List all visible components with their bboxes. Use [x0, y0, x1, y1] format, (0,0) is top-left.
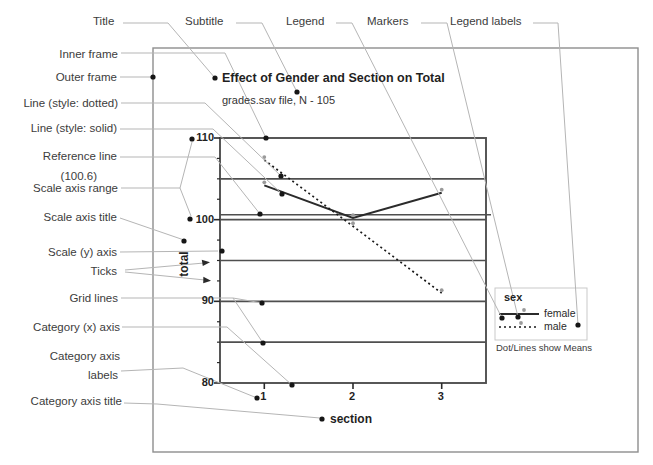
data-point-marker: [262, 180, 266, 184]
callout-dot-grid-lines-b: [260, 340, 265, 345]
annotation-label-legend: Legend: [286, 15, 324, 28]
annotation-label-subtitle: Subtitle: [185, 15, 223, 28]
annotation-label-category-axis-title: Category axis title: [31, 395, 122, 408]
annotation-label-legend-labels: Legend labels: [450, 15, 522, 28]
ticks-arrow-line: [125, 272, 205, 280]
y-tick-label: 110: [184, 131, 214, 143]
data-point-marker: [351, 221, 355, 225]
x-tick-label: 1: [260, 390, 266, 402]
series-line-male: [264, 160, 441, 293]
chart-title: Effect of Gender and Section on Total: [222, 71, 445, 85]
legend-label-male: male: [544, 320, 567, 332]
callout-dot-category-axis-title: [319, 416, 324, 421]
annotation-label-scale-y-axis: Scale (y) axis: [48, 246, 117, 259]
callout-dot-title: [212, 75, 217, 80]
annotation-label-reference-line: Reference line: [43, 150, 117, 163]
x-tick-label: 2: [349, 390, 355, 402]
annotation-label-outer-frame: Outer frame: [56, 71, 117, 84]
callout-dot-legend: [499, 315, 504, 320]
callout-dot-line-dotted: [278, 173, 283, 178]
annotation-label-line-dotted: Line (style: dotted): [23, 97, 118, 110]
callout-dot-reference-line: [257, 211, 262, 216]
callout-dot-legend-labels: [575, 322, 580, 327]
callout-line-legend: [336, 23, 502, 318]
y-tick-label: 100: [184, 213, 214, 225]
callout-line-scale-y-axis: [120, 251, 218, 252]
chart-subtitle: grades.sav file, N - 105: [222, 94, 335, 106]
figure-chart-anatomy: Title Subtitle Legend Markers Legend lab…: [0, 0, 653, 465]
callout-dot-markers: [515, 314, 520, 319]
annotation-label-markers: Markers: [367, 15, 409, 28]
annotation-label-scale-axis-title: Scale axis title: [43, 211, 117, 224]
callout-dot-inner-frame: [263, 135, 268, 140]
callout-dot-outer-frame: [150, 74, 155, 79]
ticks-arrow-line: [125, 263, 204, 270]
callout-dot-grid-lines-a: [259, 300, 264, 305]
legend-note: Dot/Lines show Means: [496, 342, 592, 353]
annotation-label-scale-axis-range: Scale axis range: [33, 182, 118, 195]
annotation-label-title: Title: [93, 15, 114, 28]
legend-marker-male: [519, 321, 523, 325]
callout-dot-category-x-axis: [289, 382, 294, 387]
ticks-arrowhead: [203, 277, 212, 284]
annotation-label-category-x-axis: Category (x) axis: [33, 321, 120, 334]
data-point-marker: [351, 213, 355, 217]
y-tick-label: 80: [184, 376, 214, 388]
annotation-label-category-axis: Category axis: [50, 350, 120, 363]
callout-line-scale-axis-range-a: [121, 142, 192, 188]
ticks-arrowhead: [202, 259, 211, 266]
annotation-label-grid-lines: Grid lines: [69, 292, 118, 305]
callout-dot-category-axis-labels: [254, 395, 259, 400]
callout-line-legend-labels: [533, 23, 578, 325]
x-tick-label: 3: [438, 390, 444, 402]
callout-dot-line-solid: [279, 191, 284, 196]
annotation-label-line-solid: Line (style: solid): [31, 122, 117, 135]
callout-line-markers: [421, 23, 518, 317]
y-axis-title: total: [177, 243, 191, 285]
callout-line-scale-axis-title: [120, 218, 184, 240]
x-axis-title: section: [330, 412, 372, 426]
legend-label-female: female: [544, 307, 576, 319]
callout-dot-scale-y-axis: [219, 248, 224, 253]
annotation-label-inner-frame: Inner frame: [59, 48, 118, 61]
annotation-label-category-axis-labels: labels: [88, 369, 118, 382]
legend-title: sex: [504, 291, 522, 303]
callout-line-title: [123, 23, 215, 78]
callout-line-reference-line: [120, 157, 260, 214]
data-point-marker: [440, 188, 444, 192]
y-tick-label: 90: [184, 294, 214, 306]
legend-marker-female: [522, 308, 526, 312]
data-point-marker: [440, 288, 444, 292]
annotation-label-ticks: Ticks: [91, 265, 117, 278]
